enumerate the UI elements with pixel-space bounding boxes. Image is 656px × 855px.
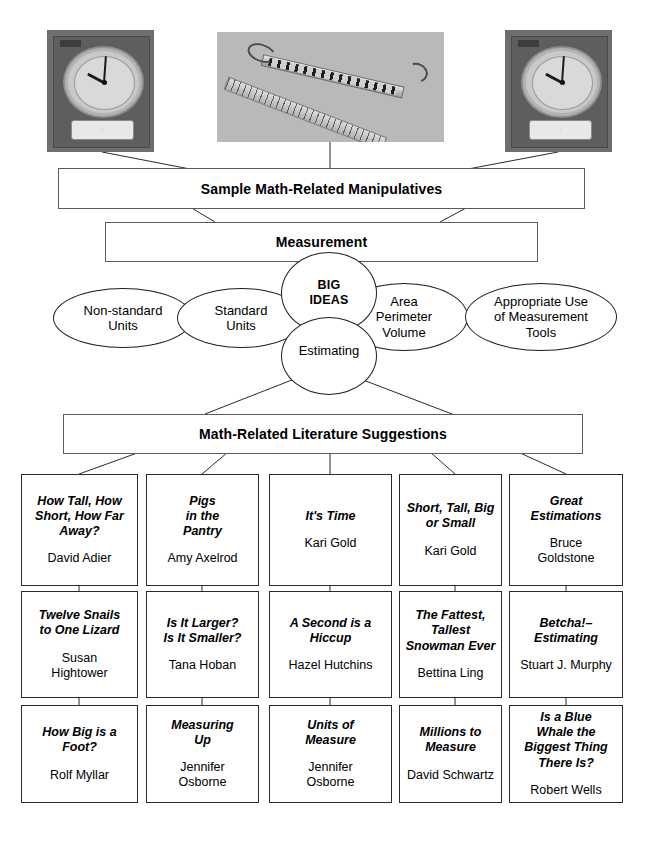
book-card: Is It Larger? Is It Smaller? Tana Hoban: [146, 591, 259, 698]
clock-brand-logo: [60, 40, 81, 47]
book-author: Rolf Myllar: [50, 768, 109, 783]
book-card: Short, Tall, Big or Small Kari Gold: [399, 474, 502, 586]
book-author: Stuart J. Murphy: [520, 658, 612, 673]
oval-appropriate-use-of-measurement-tools: Appropriate Use of Measurement Tools: [465, 283, 617, 351]
clock-center-pivot: [560, 80, 565, 85]
node-label: Sample Math-Related Manipulatives: [201, 181, 442, 197]
book-card: Pigs in the Pantry Amy Axelrod: [146, 474, 259, 586]
book-author: Hazel Hutchins: [288, 658, 372, 673]
book-author: Kari Gold: [424, 544, 476, 559]
clock-brand-logo: [518, 40, 539, 47]
book-title: How Tall, How Short, How Far Away?: [35, 494, 124, 540]
clock-face: [521, 46, 602, 118]
oval-label: Standard Units: [211, 303, 272, 334]
oval-non-standard-units: Non-standard Units: [53, 288, 193, 348]
node-math-related-literature-suggestions: Math-Related Literature Suggestions: [63, 414, 583, 454]
oval-estimating: Estimating: [281, 317, 377, 395]
book-title: A Second is a Hiccup: [290, 616, 372, 647]
teaching-clock-left-photo: :: [47, 30, 154, 152]
book-card: A Second is a Hiccup Hazel Hutchins: [269, 591, 392, 698]
book-author: Susan Hightower: [51, 651, 107, 682]
clock-face: [63, 46, 144, 118]
clock-dial: [74, 56, 135, 110]
book-card: Great Estimations Bruce Goldstone: [509, 474, 623, 586]
book-title: Short, Tall, Big or Small: [407, 501, 495, 532]
book-card: Betcha!– Estimating Stuart J. Murphy: [509, 591, 623, 698]
book-card: How Big is a Foot? Rolf Myllar: [21, 705, 138, 803]
book-author: Bettina Ling: [417, 666, 483, 681]
book-title: How Big is a Foot?: [42, 725, 116, 756]
book-title: Twelve Snails to One Lizard: [39, 608, 121, 639]
oval-label: BIG IDEAS: [305, 278, 352, 308]
book-card: It's Time Kari Gold: [269, 474, 392, 586]
book-author: Robert Wells: [530, 783, 601, 798]
node-label: Measurement: [276, 234, 367, 250]
measurement-concept-map: : : Sample M: [0, 0, 656, 855]
book-card: The Fattest, Tallest Snowman Ever Bettin…: [399, 591, 502, 698]
book-card: Units of Measure Jennifer Osborne: [269, 705, 392, 803]
oval-label: Area Perimeter Volume: [372, 294, 436, 340]
oval-label: Estimating: [295, 343, 364, 358]
book-author: David Schwartz: [407, 768, 494, 783]
clock-digital-readout: :: [559, 127, 562, 133]
clock-dial: [532, 56, 593, 110]
oval-label: Non-standard Units: [80, 303, 167, 334]
book-author: Kari Gold: [304, 536, 356, 551]
book-title: Measuring Up: [171, 718, 234, 749]
clock-digital-readout: :: [101, 127, 104, 133]
clock-digital-window: :: [71, 120, 133, 141]
node-label: Math-Related Literature Suggestions: [199, 426, 447, 442]
book-title: Is a Blue Whale the Biggest Thing There …: [524, 710, 607, 771]
book-title: Great Estimations: [531, 494, 602, 525]
book-author: David Adier: [48, 551, 112, 566]
spring-scale: [261, 54, 405, 98]
spring-scale-bottom-hook: [403, 59, 431, 86]
teaching-clock-right-photo: :: [505, 30, 612, 152]
oval-label: Appropriate Use of Measurement Tools: [490, 294, 592, 340]
clock-card-backing: :: [53, 36, 149, 148]
clock-center-pivot: [102, 80, 107, 85]
clock-digital-window: :: [529, 120, 591, 141]
book-author: Jennifer Osborne: [179, 760, 227, 791]
book-title: The Fattest, Tallest Snowman Ever: [406, 608, 496, 654]
book-author: Amy Axelrod: [167, 551, 237, 566]
book-card: Twelve Snails to One Lizard Susan Highto…: [21, 591, 138, 698]
book-title: Millions to Measure: [420, 725, 482, 756]
node-sample-math-related-manipulatives: Sample Math-Related Manipulatives: [58, 168, 585, 209]
spring-scale-graduations: [268, 58, 398, 95]
book-author: Tana Hoban: [169, 658, 236, 673]
book-card: How Tall, How Short, How Far Away? David…: [21, 474, 138, 586]
clock-card-backing: :: [511, 36, 607, 148]
book-title: Betcha!– Estimating: [534, 616, 598, 647]
book-card: Is a Blue Whale the Biggest Thing There …: [509, 705, 623, 803]
clock-minute-hand: [103, 56, 107, 83]
book-author: Jennifer Osborne: [307, 760, 355, 791]
book-title: Is It Larger? Is It Smaller?: [164, 616, 242, 647]
book-author: Bruce Goldstone: [538, 536, 595, 567]
book-card: Measuring Up Jennifer Osborne: [146, 705, 259, 803]
book-title: Units of Measure: [305, 718, 356, 749]
book-card: Millions to Measure David Schwartz: [399, 705, 502, 803]
clock-minute-hand: [561, 56, 565, 83]
book-title: It's Time: [306, 509, 356, 524]
ruler-and-spring-scale-photo: [217, 32, 444, 142]
book-title: Pigs in the Pantry: [183, 494, 222, 540]
